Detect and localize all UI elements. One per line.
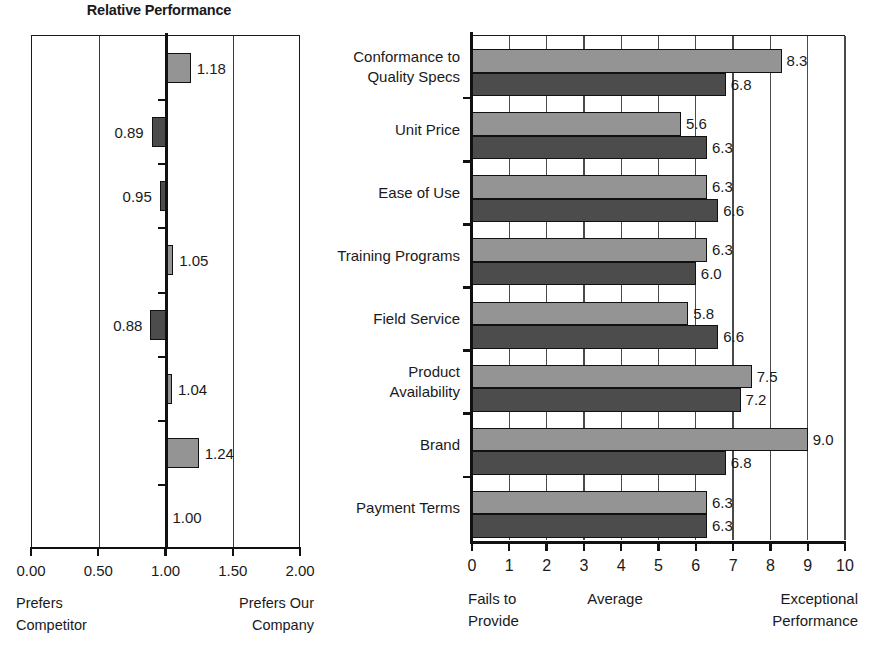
left-axis-note-company: Prefers OurCompany xyxy=(196,592,314,636)
right-x-tick xyxy=(769,541,771,551)
right-x-tick-label: 1 xyxy=(489,557,529,575)
right-bar xyxy=(472,451,726,475)
right-axis-note-line: Provide xyxy=(468,610,578,632)
right-y-tick xyxy=(463,412,473,415)
left-chart-title: Relative Performance xyxy=(0,2,318,18)
right-axis-note-line: Performance xyxy=(728,610,858,632)
left-x-tick xyxy=(30,547,32,556)
right-bar xyxy=(472,175,707,199)
right-category-label: Unit Price xyxy=(330,98,460,161)
right-bar xyxy=(472,262,696,286)
right-bar xyxy=(472,199,718,223)
left-x-tick-label: 1.50 xyxy=(198,562,268,579)
right-bar-value: 5.8 xyxy=(693,305,714,322)
right-bar xyxy=(472,112,681,136)
right-category-label-line: Brand xyxy=(330,435,460,455)
left-bar xyxy=(167,53,191,83)
left-bar-value: 1.05 xyxy=(179,252,208,269)
right-gridline xyxy=(844,36,845,540)
right-x-tick-label: 0 xyxy=(452,557,492,575)
right-bar xyxy=(472,365,752,389)
right-bar xyxy=(472,49,782,73)
right-category-label: Field Service xyxy=(330,288,460,351)
right-bar-value: 6.6 xyxy=(723,202,744,219)
right-x-tick xyxy=(583,541,585,551)
right-y-tick xyxy=(463,97,473,100)
right-x-tick xyxy=(844,541,846,551)
right-plot-area: 8.36.85.66.36.36.66.36.05.86.67.57.29.06… xyxy=(472,35,845,540)
right-x-tick xyxy=(732,541,734,551)
right-bar-value: 9.0 xyxy=(813,431,834,448)
right-bar-value: 6.8 xyxy=(731,454,752,471)
figure-root: Relative Performance 1.180.890.951.050.8… xyxy=(0,0,871,659)
right-gridline xyxy=(807,36,808,540)
right-x-tick xyxy=(471,541,473,551)
left-x-tick xyxy=(97,547,99,556)
right-category-label-line: Unit Price xyxy=(330,120,460,140)
left-bar xyxy=(150,310,166,340)
right-x-tick xyxy=(508,541,510,551)
left-bar xyxy=(167,438,199,468)
right-bar-value: 6.8 xyxy=(731,76,752,93)
right-bar xyxy=(472,238,707,262)
left-bar-value: 0.95 xyxy=(123,188,152,205)
right-category-label-line: Field Service xyxy=(330,309,460,329)
right-category-label: Conformance toQuality Specs xyxy=(330,35,460,98)
right-axis-note-line: Exceptional xyxy=(728,588,858,610)
right-category-label: Ease of Use xyxy=(330,161,460,224)
right-bar-value: 7.5 xyxy=(757,368,778,385)
left-axis-note-line: Competitor xyxy=(16,614,136,636)
relative-performance-chart: Relative Performance 1.180.890.951.050.8… xyxy=(0,0,330,659)
right-x-tick-label: 4 xyxy=(601,557,641,575)
right-category-label: ProductAvailability xyxy=(330,351,460,414)
performance-ratings-chart: Conformance toQuality SpecsUnit PriceEas… xyxy=(330,0,871,659)
right-category-label-line: Conformance to xyxy=(330,47,460,67)
right-y-tick xyxy=(463,223,473,226)
right-axis-note-exceptional: ExceptionalPerformance xyxy=(728,588,858,632)
right-bar-value: 7.2 xyxy=(746,391,767,408)
right-bar-value: 6.0 xyxy=(701,265,722,282)
right-x-tick xyxy=(620,541,622,551)
left-x-tick-label: 0.00 xyxy=(0,562,66,579)
right-bar-value: 6.3 xyxy=(712,178,733,195)
right-category-label: Payment Terms xyxy=(330,477,460,540)
right-bar xyxy=(472,302,688,326)
right-x-tick-label: 6 xyxy=(676,557,716,575)
left-bar-value: 0.89 xyxy=(115,124,144,141)
right-y-tick xyxy=(463,476,473,479)
right-gridline xyxy=(770,36,771,540)
left-plot-area: 1.180.890.951.050.881.041.241.00 xyxy=(31,35,300,548)
right-x-tick-label: 10 xyxy=(825,557,865,575)
left-x-tick xyxy=(299,547,301,556)
left-bar-value: 0.88 xyxy=(113,316,142,333)
right-x-tick-label: 8 xyxy=(750,557,790,575)
right-x-tick-label: 5 xyxy=(639,557,679,575)
right-bar xyxy=(472,136,707,160)
left-bar-value: 1.18 xyxy=(197,60,226,77)
right-y-tick xyxy=(463,160,473,163)
right-x-tick xyxy=(545,541,547,551)
right-y-tick xyxy=(463,286,473,289)
right-bar-value: 6.6 xyxy=(723,328,744,345)
right-axis-note-average: Average xyxy=(560,588,670,610)
right-y-tick xyxy=(463,349,473,352)
right-category-label: Brand xyxy=(330,414,460,477)
right-category-label-line: Ease of Use xyxy=(330,183,460,203)
right-bar xyxy=(472,325,718,349)
right-category-label-line: Quality Specs xyxy=(330,67,460,87)
right-bar-value: 6.3 xyxy=(712,139,733,156)
left-x-tick-label: 0.50 xyxy=(63,562,133,579)
left-bar-value: 1.04 xyxy=(178,380,207,397)
right-category-label-line: Product xyxy=(330,362,460,382)
right-bar xyxy=(472,428,808,452)
right-x-tick xyxy=(657,541,659,551)
left-baseline-axis xyxy=(165,33,167,547)
right-category-label: Training Programs xyxy=(330,224,460,287)
left-x-tick xyxy=(232,547,234,556)
left-x-tick-label: 2.00 xyxy=(265,562,335,579)
left-x-tick-label: 1.00 xyxy=(131,562,201,579)
right-bar xyxy=(472,388,741,412)
right-bar-value: 6.3 xyxy=(712,494,733,511)
right-category-labels: Conformance toQuality SpecsUnit PriceEas… xyxy=(330,35,460,540)
right-bar-value: 6.3 xyxy=(712,241,733,258)
